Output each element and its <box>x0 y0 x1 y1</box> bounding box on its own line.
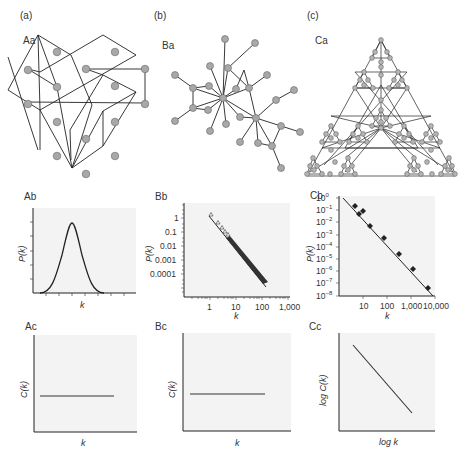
bb-ytick: 0.001 <box>155 255 176 265</box>
chart-Cb <box>336 196 435 299</box>
figure-canvas <box>0 0 464 452</box>
bb-ytick: 1 <box>174 213 179 223</box>
bb-ylabel: P(k) <box>144 246 154 263</box>
chart-Bc <box>183 333 291 431</box>
sublabel-Ba: Ba <box>162 40 174 51</box>
cb-xtick: 10,000 <box>423 301 449 311</box>
cb-ytick-6: 10−6 <box>316 265 332 276</box>
ac-xlabel: k <box>81 438 86 448</box>
bb-xtick: 10 <box>231 302 240 312</box>
sublabel-Ac: Ac <box>25 321 37 332</box>
panel-label-c: (c) <box>307 10 319 21</box>
bc-xlabel: k <box>235 438 240 448</box>
sublabel-Cc: Cc <box>309 321 321 332</box>
panel-label-a: (a) <box>20 10 32 21</box>
cb-ytick-0: 100 <box>316 192 329 203</box>
cb-ytick-1: 10−1 <box>316 204 332 215</box>
cb-ytick-3: 10−3 <box>316 229 332 240</box>
sublabel-Aa: Aa <box>23 35 35 46</box>
ab-ylabel: P(k) <box>17 246 27 263</box>
cc-xlabel: log k <box>379 437 398 447</box>
sublabel-Bc: Bc <box>155 321 167 332</box>
bb-xtick: 100 <box>255 302 269 312</box>
chart-Cc <box>339 333 435 431</box>
chart-Ab <box>30 208 136 296</box>
bb-xtick: 1 <box>207 302 212 312</box>
bb-ytick: 0.01 <box>160 241 177 251</box>
cb-xtick: 100 <box>380 301 394 311</box>
sublabel-Bb: Bb <box>155 191 167 202</box>
cc-ylabel: log C(k) <box>318 374 328 406</box>
scale-free-network-nodes <box>172 36 304 172</box>
bb-ytick: 0.0001 <box>150 269 176 279</box>
bc-ylabel: C(k) <box>167 381 177 398</box>
bb-ytick: 0.1 <box>165 227 177 237</box>
sublabel-Ca: Ca <box>315 35 328 46</box>
chart-Ac <box>34 335 137 432</box>
ac-ylabel: C(k) <box>19 381 29 398</box>
cb-ytick-5: 10−5 <box>316 253 332 264</box>
cb-ytick-4: 10−4 <box>316 241 332 252</box>
cb-ylabel: P(k) <box>305 246 315 263</box>
bb-xlabel: k <box>234 311 239 321</box>
ab-xlabel: k <box>80 300 85 310</box>
panel-label-b: (b) <box>154 10 166 21</box>
cb-xlabel: k <box>385 311 390 321</box>
chart-Bb <box>181 203 290 300</box>
cb-ytick-8: 10−8 <box>316 290 332 301</box>
cb-xtick: 1,000 <box>401 301 422 311</box>
bb-xtick: 1,000 <box>279 302 300 312</box>
cb-xtick: 10 <box>359 301 368 311</box>
scale-free-network-Ba <box>175 39 300 168</box>
cb-ytick-7: 10−7 <box>316 277 332 288</box>
cb-ytick-2: 10−2 <box>316 216 332 227</box>
sublabel-Ab: Ab <box>24 191 36 202</box>
random-network-nodes <box>24 48 149 178</box>
